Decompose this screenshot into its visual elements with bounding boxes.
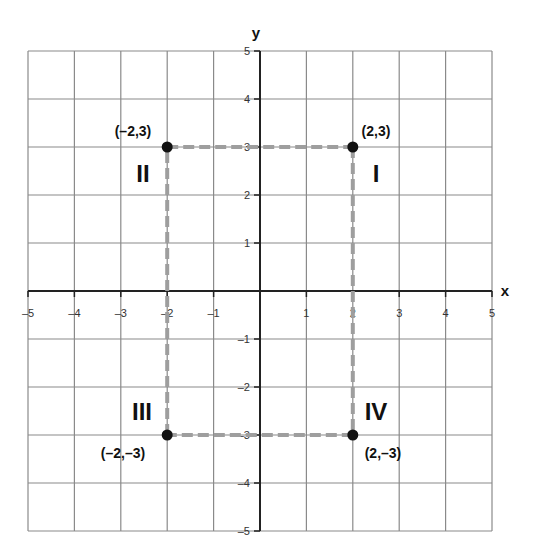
coordinate-plane: –5–4–3–2–11234554321–1–2–3–4–5 y x (–2,3…	[0, 0, 533, 559]
quadrant-label-I: I	[373, 160, 380, 187]
x-axis-label: x	[501, 282, 510, 299]
axes	[28, 51, 492, 531]
point-label-neg2-neg3: (–2,–3)	[101, 445, 145, 461]
y-tick-label: –1	[238, 333, 250, 345]
y-axis-label: y	[252, 24, 261, 41]
y-tick-label: 4	[244, 93, 250, 105]
x-tick-label: 1	[303, 307, 309, 319]
y-tick-label: –5	[238, 525, 250, 537]
quadrant-label-III: III	[132, 398, 152, 425]
point-marker	[347, 430, 358, 441]
y-tick-label: 2	[244, 189, 250, 201]
quadrant-label-II: II	[136, 160, 149, 187]
x-tick-label: 3	[396, 307, 402, 319]
x-tick-label: –4	[68, 307, 80, 319]
point-label-2-neg3: (2,–3)	[365, 445, 402, 461]
x-tick-label: –3	[115, 307, 127, 319]
x-tick-label: 4	[443, 307, 449, 319]
y-tick-label: 1	[244, 237, 250, 249]
y-tick-label: –4	[238, 477, 250, 489]
y-tick-label: 5	[244, 45, 250, 57]
point-marker	[162, 430, 173, 441]
point-marker	[162, 142, 173, 153]
point-label-neg2-3: (–2,3)	[115, 123, 152, 139]
y-tick-label: –2	[238, 381, 250, 393]
x-tick-label: –5	[22, 307, 34, 319]
point-label-2-3: (2,3)	[362, 123, 391, 139]
x-tick-label: –1	[207, 307, 219, 319]
x-tick-label: 5	[489, 307, 495, 319]
quadrant-label-IV: IV	[365, 398, 388, 425]
point-marker	[347, 142, 358, 153]
